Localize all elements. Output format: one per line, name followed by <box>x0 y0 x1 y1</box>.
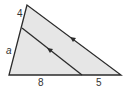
label-lower-left: a <box>6 46 12 56</box>
outer-triangle <box>9 5 121 75</box>
label-bottom-right: 5 <box>96 78 102 88</box>
label-upper-left: 4 <box>17 9 23 19</box>
label-bottom-left: 8 <box>38 78 44 88</box>
